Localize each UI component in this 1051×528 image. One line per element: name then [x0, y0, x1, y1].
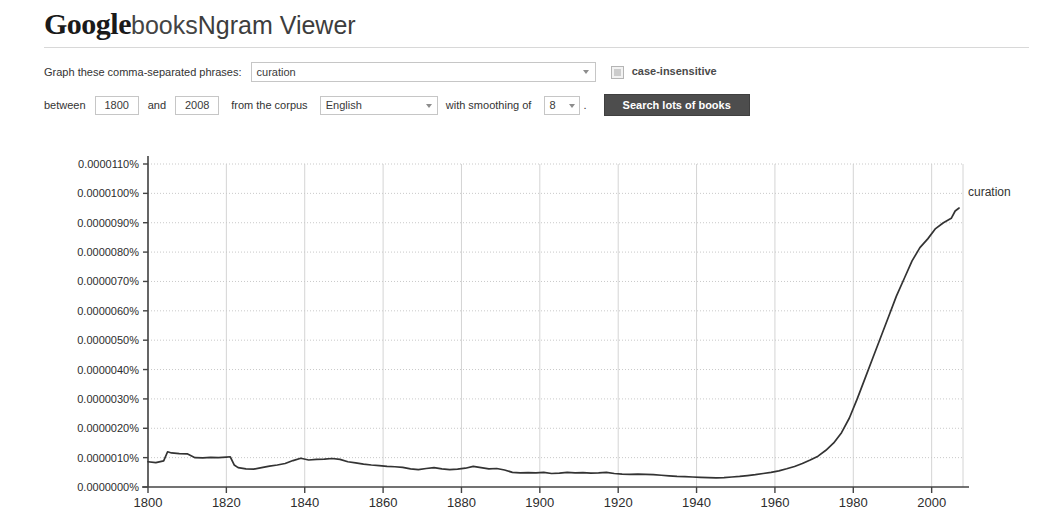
y-tick-label: 0.0000100% [77, 187, 139, 199]
y-tick-label: 0.0000000% [77, 481, 139, 493]
ngram-chart-svg: 0.0000000%0.0000010%0.0000020%0.0000030%… [0, 140, 1051, 520]
y-axis-ticks: 0.0000000%0.0000010%0.0000020%0.0000030%… [77, 158, 148, 493]
phrases-row: Graph these comma-separated phrases: cur… [44, 62, 1034, 84]
app-logo: GooglebooksNgram Viewer [44, 8, 1024, 41]
y-tick-label: 0.0000110% [78, 158, 139, 170]
x-tick-label: 1860 [369, 495, 398, 510]
y-tick-label: 0.0000090% [77, 217, 139, 229]
x-tick-label: 1920 [604, 495, 633, 510]
smoothing-label: with smoothing of [446, 99, 532, 111]
y-tick-label: 0.0000050% [77, 334, 139, 346]
google-wordmark: Google [44, 7, 131, 40]
y-tick-label: 0.0000060% [77, 305, 139, 317]
smoothing-select-wrapper[interactable]: 8 [544, 96, 580, 115]
ngram-chart: 0.0000000%0.0000010%0.0000020%0.0000030%… [0, 140, 1051, 520]
phrases-label: Graph these comma-separated phrases: [44, 66, 242, 78]
x-tick-label: 2000 [917, 495, 946, 510]
series-legend-label[interactable]: curation [968, 185, 1011, 199]
page-header: GooglebooksNgram Viewer [44, 8, 1024, 44]
header-divider [44, 47, 1029, 48]
y-tick-label: 0.0000020% [77, 422, 139, 434]
chevron-down-icon[interactable] [583, 70, 589, 74]
x-tick-label: 1980 [839, 495, 868, 510]
search-button[interactable]: Search lots of books [604, 94, 750, 116]
x-tick-label: 1800 [134, 495, 163, 510]
x-tick-label: 1900 [525, 495, 554, 510]
smoothing-suffix: . [583, 99, 586, 111]
phrases-input[interactable]: curation [251, 62, 596, 82]
horizontal-gridlines [148, 164, 963, 458]
corpus-label: from the corpus [231, 99, 307, 111]
case-insensitive-checkbox[interactable] [611, 66, 624, 79]
x-tick-label: 1940 [682, 495, 711, 510]
y-tick-label: 0.0000030% [77, 393, 139, 405]
chevron-down-icon[interactable] [426, 104, 432, 108]
x-tick-label: 1820 [212, 495, 241, 510]
options-row: between 1800 and 2008 from the corpus En… [44, 94, 1034, 116]
x-tick-label: 1840 [290, 495, 319, 510]
y-tick-label: 0.0000080% [77, 246, 139, 258]
and-label: and [148, 99, 166, 111]
y-tick-label: 0.0000010% [77, 452, 139, 464]
series-line-curation[interactable] [148, 208, 959, 478]
case-insensitive-label[interactable]: case-insensitive [632, 65, 717, 77]
end-year-input[interactable]: 2008 [175, 96, 219, 115]
checkbox-inner-fill [614, 69, 621, 76]
vertical-gridlines [148, 164, 963, 487]
between-label: between [44, 99, 86, 111]
x-tick-label: 1880 [447, 495, 476, 510]
y-tick-label: 0.0000070% [77, 275, 139, 287]
chevron-down-icon[interactable] [569, 104, 575, 108]
books-wordmark: books [131, 11, 198, 39]
ngram-viewer-title: Ngram Viewer [198, 11, 356, 39]
corpus-select-wrapper[interactable]: English [320, 96, 438, 115]
x-axis-ticks: 1800182018401860188019001920194019601980… [134, 487, 947, 510]
start-year-input[interactable]: 1800 [95, 96, 139, 115]
phrases-input-wrapper[interactable]: curation [251, 62, 596, 82]
corpus-select[interactable]: English [320, 96, 438, 115]
query-form: Graph these comma-separated phrases: cur… [44, 58, 1034, 120]
y-tick-label: 0.0000040% [77, 364, 139, 376]
x-tick-label: 1960 [760, 495, 789, 510]
